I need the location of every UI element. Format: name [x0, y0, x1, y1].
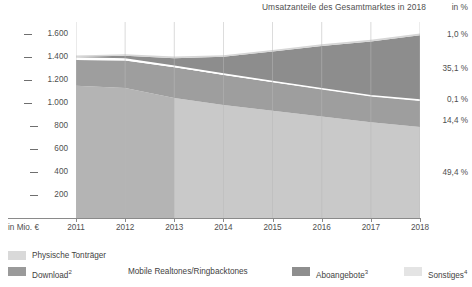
y-axis-tick: 600 — [54, 144, 68, 154]
y-tick-label: 200 — [54, 190, 68, 200]
x-axis-label: 2014 — [214, 223, 232, 232]
y-tick-label: 400 — [54, 167, 68, 177]
chart-title: Umsatzanteile des Gesamtmarktes in 2018 — [262, 2, 426, 12]
y-axis-tick: 200 — [54, 190, 68, 200]
legend-label: Aboangebote3 — [316, 266, 368, 278]
y-axis-tick: 400 — [54, 167, 68, 177]
y-tick-label: 1.400 — [48, 52, 69, 62]
legend-swatch — [292, 267, 310, 276]
share-callout: 1,0 % — [447, 30, 468, 39]
x-axis-labels: in Mio. € 201120122013201420152016201720… — [0, 223, 472, 235]
legend-label: Sonstiges4 — [428, 266, 467, 278]
x-tick-mark — [174, 218, 175, 222]
share-callout: 14,4 % — [443, 115, 469, 124]
y-tick-label: 1.000 — [48, 98, 69, 108]
share-callout: 35,1 % — [443, 63, 469, 72]
x-axis-label: 2011 — [67, 223, 85, 232]
x-tick-mark — [371, 218, 372, 222]
y-tick-label: 600 — [54, 144, 68, 154]
y-tick-mark — [30, 149, 38, 160]
share-callouts: 1,0 %35,1 %0,1 %14,4 %49,4 % — [426, 22, 470, 218]
legend-label: Download2 — [32, 266, 72, 278]
x-tick-mark — [273, 218, 274, 222]
y-unit-label: in Mio. € — [8, 223, 39, 232]
plot-area — [76, 22, 420, 218]
chart-header: Umsatzanteile des Gesamtmarktes in 2018 … — [0, 2, 472, 16]
legend-label: Mobile Realtones/Ringbacktones — [128, 266, 248, 278]
y-tick-mark — [24, 57, 32, 68]
y-tick-mark — [30, 172, 38, 183]
y-axis-tick: 1.200 — [48, 75, 69, 85]
percent-column-header: in % — [452, 2, 468, 12]
x-tick-mark — [223, 218, 224, 222]
legend-label: Physische Tonträger — [32, 250, 106, 262]
legend-footnote-marker: 2 — [68, 269, 71, 275]
y-tick-label: 1.200 — [48, 75, 69, 85]
stacked-area-svg — [76, 22, 420, 218]
x-tick-mark — [322, 218, 323, 222]
legend-footnote-marker: 3 — [365, 269, 368, 275]
legend-footnote-marker: 4 — [464, 269, 467, 275]
x-tick-mark — [420, 218, 421, 222]
x-axis-label: 2015 — [263, 223, 281, 232]
y-tick-mark — [24, 34, 32, 45]
chart-container: Umsatzanteile des Gesamtmarktes in 2018 … — [0, 0, 472, 287]
x-axis-label: 2017 — [362, 223, 380, 232]
x-axis-line — [8, 218, 420, 219]
legend-swatch — [8, 267, 26, 276]
share-callout: 49,4 % — [443, 168, 469, 177]
y-tick-mark — [24, 80, 32, 91]
x-axis-label: 2012 — [116, 223, 134, 232]
y-axis: 1.6001.4001.2001.000800600400200 — [0, 22, 76, 218]
y-tick-mark — [24, 103, 32, 114]
legend-swatch — [404, 267, 422, 276]
y-tick-mark — [30, 195, 38, 206]
x-tick-mark — [125, 218, 126, 222]
chart-legend: Physische TonträgerDownload2Mobile Realt… — [0, 248, 472, 287]
y-tick-label: 1.600 — [48, 29, 69, 39]
y-tick-mark — [30, 126, 38, 137]
y-tick-label: 800 — [54, 121, 68, 131]
x-axis-label: 2013 — [165, 223, 183, 232]
x-axis-label: 2018 — [411, 223, 429, 232]
y-axis-tick: 800 — [54, 121, 68, 131]
share-callout: 0,1 % — [447, 95, 468, 104]
y-axis-tick: 1.400 — [48, 52, 69, 62]
legend-swatch — [8, 251, 26, 260]
x-axis-label: 2016 — [313, 223, 331, 232]
y-axis-tick: 1.000 — [48, 98, 69, 108]
x-tick-mark — [76, 218, 77, 222]
y-axis-tick: 1.600 — [48, 29, 69, 39]
